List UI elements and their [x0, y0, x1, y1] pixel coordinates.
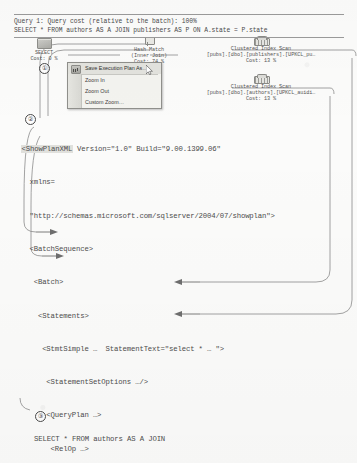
query-cost-line: Query 1: Query cost (relative to the bat…: [14, 17, 344, 27]
mouse-cursor-icon: [146, 65, 153, 75]
select-result-icon: [37, 38, 52, 49]
query-cost-header: Query 1: Query cost (relative to the bat…: [14, 14, 344, 38]
xml-root-tag-highlight: <ShowPlanXML: [21, 145, 73, 153]
xml-line-0: <ShowPlanXML Version="1.0" Build="9.00.1…: [21, 144, 341, 155]
plan-node-select-cost: Cost: 0 %: [16, 56, 72, 62]
xml-line-6: <StmtSimple … StatementText="select * … …: [21, 344, 341, 355]
header-rule-top: [14, 14, 344, 15]
clustered-index-scan-icon: [254, 74, 268, 83]
menu-item-zoom-in[interactable]: Zoom In: [68, 75, 161, 86]
header-rule-bottom: [14, 37, 344, 38]
save-plan-icon: [71, 65, 81, 74]
plan-node-select[interactable]: SELECT Cost: 0 %: [16, 38, 72, 62]
menu-item-zoom-in-label: Zoom In: [85, 77, 105, 83]
menu-item-zoom-out-label: Zoom Out: [85, 88, 109, 94]
execution-plan-graph[interactable]: SELECT Cost: 0 % Hash Match (Inner Join)…: [0, 36, 357, 116]
xml-line-1: xmlns=: [21, 177, 341, 188]
menu-item-custom-zoom-label: Custom Zoom…: [85, 99, 124, 105]
menu-item-zoom-out[interactable]: Zoom Out: [68, 86, 161, 97]
query-sql-line: SELECT * FROM authors AS A JOIN publishe…: [14, 26, 344, 36]
cis-authors-cost: Cost: 13 %: [186, 96, 336, 102]
xml-line-3: <BatchSequence>: [21, 244, 341, 255]
figure-page: Query 1: Query cost (relative to the bat…: [0, 0, 357, 463]
xml-line-4: <Batch>: [21, 277, 341, 288]
step-marker-2: ②: [25, 114, 36, 125]
xml-line-5: <Statements>: [21, 311, 341, 322]
xml-line-0-rest: Version="1.0" Build="9.00.1399.06": [73, 145, 221, 153]
menu-item-save-label: Save Execution Plan As…: [85, 65, 148, 71]
use-plan-query-block: SELECT * FROM authors AS A JOIN publishe…: [34, 412, 344, 463]
plan-node-clustered-index-scan-authors[interactable]: Clustered Index Scan [pubs].[dbo].[autho…: [186, 74, 336, 103]
xml-line-7: <StatementSetOptions …/>: [21, 377, 341, 388]
cis-publishers-cost: Cost: 13 %: [186, 58, 336, 64]
step-marker-3: ③: [35, 411, 46, 422]
plan-node-clustered-index-scan-publishers[interactable]: Clustered Index Scan [pubs].[dbo].[publi…: [186, 36, 336, 65]
menu-item-custom-zoom[interactable]: Custom Zoom…: [68, 97, 161, 108]
use-plan-line-1: SELECT * FROM authors AS A JOIN: [34, 434, 344, 445]
xml-line-2: "http://schemas.microsoft.com/sqlserver/…: [21, 211, 341, 222]
step-marker-1: ①: [39, 63, 50, 74]
